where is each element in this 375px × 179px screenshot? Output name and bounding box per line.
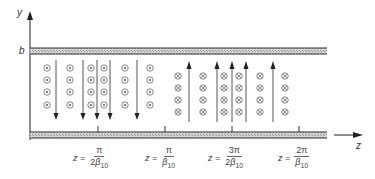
z-tick-label-3: z = 3π 2β10 (208, 145, 245, 171)
dot-circle-column (88, 65, 94, 108)
cross-circle-column (200, 73, 206, 115)
dot-circle-column (147, 65, 153, 108)
z-tick-marks (98, 126, 299, 132)
cross-circle-column (282, 73, 288, 115)
cross-circle-column (221, 73, 227, 115)
dot-circle-column (101, 65, 107, 108)
cross-circle-column (175, 73, 181, 115)
dot-circle-column (44, 65, 50, 108)
z-axis (334, 132, 363, 138)
bottom-conducting-plate (30, 132, 327, 138)
cross-circle-column (236, 73, 242, 115)
y-axis (27, 11, 33, 140)
y-axis-label: y (17, 7, 22, 18)
z-tick-label-4: z = 2π β10 (278, 145, 310, 171)
waveguide-field-diagram (0, 0, 375, 179)
z-axis-label: z (356, 140, 361, 151)
z-tick-label-2: z = π β10 (145, 145, 177, 171)
h-field-into-page-symbols (175, 73, 288, 115)
dot-circle-column (122, 65, 128, 108)
cross-circle-column (257, 73, 263, 115)
e-field-arrows-down (54, 60, 140, 120)
top-conducting-plate (30, 48, 327, 54)
plate-height-label: b (19, 45, 25, 56)
z-tick-label-1: z = π 2β10 (73, 145, 110, 171)
dot-circle-column (67, 65, 73, 108)
